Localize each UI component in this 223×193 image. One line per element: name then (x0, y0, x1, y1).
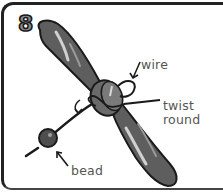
svg-text:8: 8 (18, 11, 33, 33)
label-wire: wire (141, 58, 168, 71)
label-twist: twist (163, 99, 194, 112)
propeller-icon (39, 21, 177, 186)
label-bead: bead (71, 164, 103, 177)
label-round: round (163, 113, 200, 126)
bead-icon (39, 129, 57, 147)
step-number-badge: 8 (16, 11, 42, 33)
